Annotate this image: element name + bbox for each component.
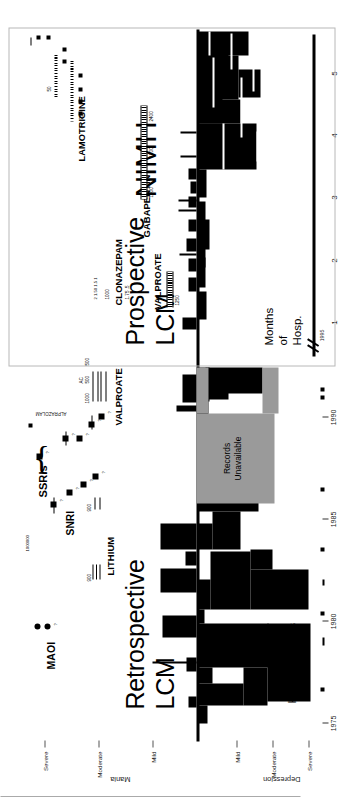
lithium-dose-1: 900 — [86, 573, 91, 581]
drug-marker-ssri — [36, 454, 42, 460]
mania-bar — [160, 523, 196, 549]
lamotrigine-duration-bar — [54, 53, 57, 97]
depression-bar — [198, 31, 248, 55]
records-unavailable-block — [262, 367, 278, 413]
hospitalization-marker — [320, 611, 324, 615]
valproate-dose-1: 1000 — [84, 393, 89, 403]
hospitalization-marker — [320, 547, 324, 551]
bar-gap — [208, 31, 210, 55]
depression-bar — [250, 569, 308, 609]
hospitalization-marker — [320, 687, 324, 691]
depression-bar — [198, 683, 243, 705]
dose-unknown-marker: ? — [100, 471, 105, 473]
drug-marker-ssri — [92, 474, 98, 480]
tick-mania-mild — [152, 740, 153, 747]
drug-marker-maoi — [34, 623, 40, 629]
dose-unknown-marker: ? — [106, 411, 111, 413]
mania-bar — [188, 219, 196, 231]
depression-bar — [198, 609, 204, 623]
depression-bar — [198, 705, 207, 723]
bar-gap — [240, 77, 242, 137]
drug-marker-lamotrigine — [46, 35, 50, 39]
drug-label-valproate-retro: VALPROATE — [112, 368, 123, 425]
mania-bar — [188, 696, 196, 707]
lithium-dose-2: 900 — [86, 503, 91, 511]
drug-label-snri: SNRI — [64, 510, 75, 535]
bar-gap — [256, 131, 258, 161]
months-of-hosp-line1: Months — [262, 307, 275, 345]
drug-label-lithium: LITHIUM — [104, 536, 115, 575]
drug-label-maoi: MAOI — [44, 641, 56, 669]
gabapentin-dose-1: 1800 — [148, 187, 153, 197]
drug-label-lamotrigine: LAMOTRIGINE — [76, 96, 86, 161]
drug-label-clonazepam: CLONAZEPAM — [112, 239, 123, 305]
depression-bar — [198, 123, 256, 169]
lamotrigine-duration-bar — [70, 59, 73, 121]
drug-marker-dash — [30, 37, 31, 45]
retrospective-title-line1: Retrospective — [120, 559, 149, 709]
mania-bar — [188, 168, 196, 179]
mania-bar — [190, 181, 196, 193]
drug-marker-ssri — [80, 482, 86, 488]
tick-depression-moderate — [272, 740, 273, 747]
mania-bar — [162, 615, 196, 637]
dose-unknown-marker: ? — [84, 433, 89, 435]
valproate-ac-label: AC — [78, 377, 83, 383]
drug-marker-dash — [53, 497, 54, 513]
dose-unknown-marker: ? — [96, 419, 101, 421]
figure-canvas: Severe Moderate Mild Mild Moderate Sever… — [0, 0, 341, 797]
mania-bar — [182, 317, 196, 329]
valproate-duration-bar — [92, 371, 98, 401]
valproate-prospective-duration-bar — [166, 271, 173, 307]
prospective-hospitalization-rule — [312, 34, 315, 356]
tick-mania-moderate — [98, 740, 99, 747]
hospitalization-marker — [322, 637, 324, 645]
drug-label-valproate-prospective: VALPROATE — [152, 253, 162, 309]
bar-gap — [212, 57, 214, 107]
depression-bar — [198, 623, 268, 667]
drug-marker-lamotrigine — [78, 99, 82, 103]
dose-unknown-marker: ? — [74, 487, 79, 489]
depression-bar — [198, 667, 212, 683]
lamotrigine-dose-2: 50 — [46, 86, 51, 91]
months-of-hosp-line2: of — [276, 335, 289, 345]
mania-bar — [178, 199, 196, 201]
gabapentin-duration-bar — [140, 105, 147, 199]
mania-bar — [185, 551, 196, 565]
dose-unknown-marker: ? — [44, 451, 49, 453]
yeartick-1975 — [322, 722, 328, 723]
clonazepam-dose-3: 2 1.50 1.5 1 — [92, 277, 97, 299]
hospitalization-marker — [320, 395, 324, 399]
dose-unknown-marker: ? — [88, 479, 93, 481]
retrospective-title-line2: LCM — [150, 657, 179, 709]
tick-depression-severe — [308, 740, 309, 747]
mania-bar — [176, 405, 196, 411]
drug-marker-alprazolam — [28, 423, 32, 427]
drug-marker-lamotrigine — [62, 47, 66, 51]
yearlabel-1990: 1990 — [329, 409, 336, 425]
mania-bar — [188, 258, 196, 271]
drug-marker-ssri — [66, 490, 72, 496]
depression-bar — [243, 667, 267, 705]
yearlabel-1975: 1975 — [329, 715, 336, 731]
misc-dose-value: 1000000 — [24, 535, 29, 551]
axis-title-mania: Mania — [110, 774, 130, 783]
mania-bar — [178, 209, 196, 211]
lithium-duration-bar-2 — [94, 497, 100, 509]
bar-gap — [230, 33, 232, 69]
depression-bar — [198, 169, 206, 197]
drug-marker-lamotrigine — [78, 111, 82, 115]
drug-marker-ssri — [98, 414, 104, 420]
depression-bar — [267, 623, 310, 701]
tick-mania-severe — [44, 740, 45, 747]
lithium-duration-bar — [92, 564, 100, 579]
hospitalization-marker — [320, 487, 324, 491]
drug-marker-lamotrigine — [36, 35, 40, 39]
yeartick-1985 — [322, 518, 328, 519]
dose-unknown-marker: ? — [52, 623, 57, 625]
depression-bar — [198, 201, 205, 231]
hospitalization-marker — [322, 579, 324, 585]
drug-marker-lamotrigine — [78, 87, 82, 91]
mania-bar — [160, 568, 196, 592]
mania-bar — [186, 238, 196, 251]
